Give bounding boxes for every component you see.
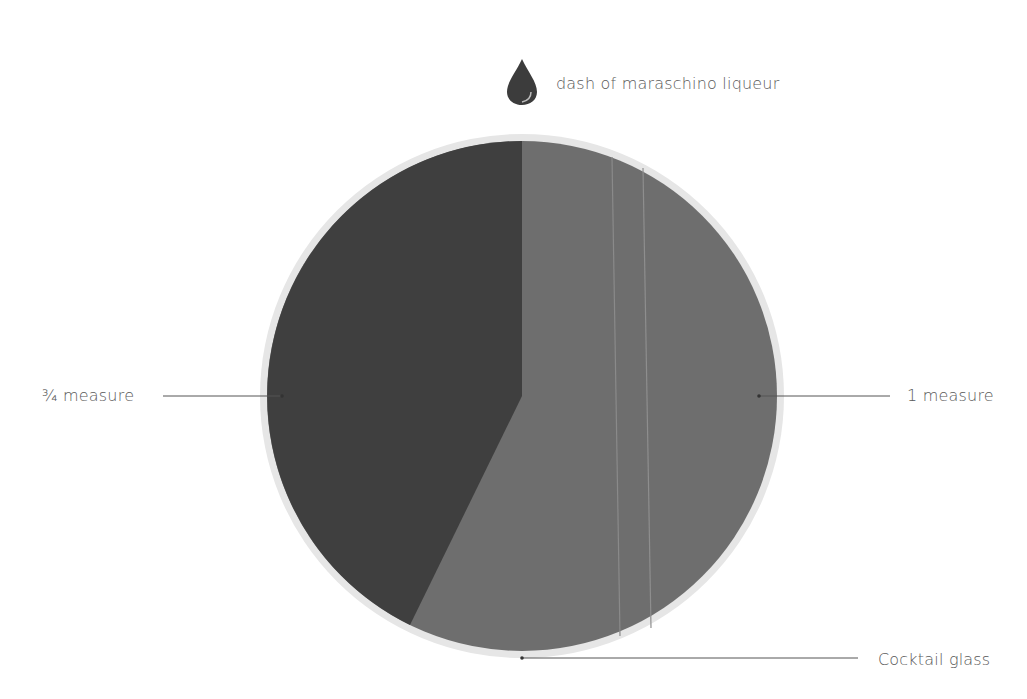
garnish-label: dash of maraschino liqueur: [556, 74, 780, 94]
recipe-diagram: dash of maraschino liqueur ¾ measure 1 m…: [0, 0, 1027, 699]
drop-icon: [507, 59, 537, 105]
pie-chart: [0, 0, 1027, 699]
glass-label: Cocktail glass: [878, 650, 990, 670]
ingredient-label-left: ¾ measure: [42, 386, 134, 406]
leader-glass: [520, 656, 858, 660]
ingredient-label-right: 1 measure: [907, 386, 994, 406]
